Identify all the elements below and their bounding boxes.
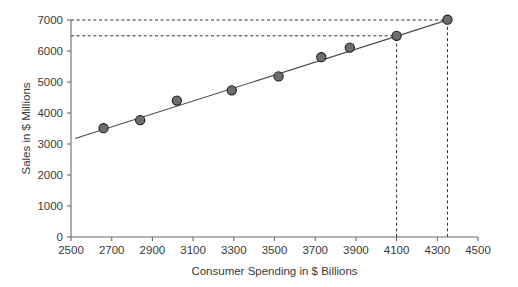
chart-canvas: 01000200030004000500060007000 2500270029…	[0, 0, 518, 287]
data-point	[172, 96, 181, 105]
data-point	[227, 86, 236, 95]
x-tick-label: 2900	[140, 244, 166, 256]
data-point	[392, 31, 401, 40]
x-tick-label: 4100	[384, 244, 410, 256]
y-tick-label: 3000	[37, 138, 63, 150]
data-point	[317, 53, 326, 62]
data-point	[345, 43, 354, 52]
y-tick-label: 4000	[37, 107, 63, 119]
y-tick-label: 6000	[37, 45, 63, 57]
x-tick-label: 3900	[343, 244, 369, 256]
data-point	[136, 116, 145, 125]
data-point	[274, 72, 283, 81]
x-tick-label: 2700	[99, 244, 125, 256]
y-axis-ticks: 01000200030004000500060007000	[37, 14, 71, 243]
y-tick-label: 7000	[37, 14, 63, 26]
x-tick-label: 4300	[425, 244, 451, 256]
x-tick-label: 3500	[262, 244, 288, 256]
y-tick-label: 2000	[37, 169, 63, 181]
y-tick-label: 1000	[37, 200, 63, 212]
x-tick-label: 2500	[58, 244, 84, 256]
x-tick-label: 4500	[465, 244, 491, 256]
reference-lines-group	[71, 20, 447, 237]
data-point	[99, 124, 108, 133]
x-axis-ticks: 2500270029003100330035003700390041004300…	[58, 237, 491, 256]
x-tick-label: 3100	[180, 244, 206, 256]
axes-group	[71, 20, 478, 237]
y-tick-label: 0	[57, 231, 63, 243]
data-points-group	[99, 15, 452, 133]
x-tick-label: 3700	[302, 244, 328, 256]
x-tick-label: 3300	[221, 244, 247, 256]
scatter-chart: 01000200030004000500060007000 2500270029…	[0, 0, 518, 287]
y-axis-title: Sales in $ Millions	[20, 82, 32, 174]
x-axis-title: Consumer Spending in $ Billions	[191, 265, 357, 277]
y-tick-label: 5000	[37, 76, 63, 88]
data-point	[443, 15, 452, 24]
